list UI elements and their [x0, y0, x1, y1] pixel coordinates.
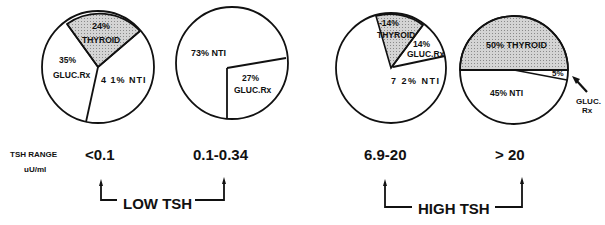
pie2-gluc-label: GLUC.Rx: [234, 85, 271, 95]
pie3-gluc-pct: 14%: [413, 39, 430, 49]
high-tsh-label: HIGH TSH: [418, 200, 490, 217]
pie1-gluc-pct: 35%: [59, 55, 76, 65]
range-label-3: 6.9-20: [364, 146, 407, 163]
pie-chart-0.1-0.34: [176, 7, 288, 119]
pie3-gluc-label: GLUC.Rx: [407, 49, 444, 59]
range-label-2: 0.1-0.34: [193, 146, 248, 163]
low-tsh-label: LOW TSH: [123, 195, 192, 212]
tsh-range-title: TSH RANGE: [10, 150, 57, 159]
pie4-gluc-callout-2: Rx: [582, 106, 592, 115]
pie-charts: [0, 0, 605, 225]
pie3-thyroid-label: THYROID: [377, 30, 415, 40]
range-label-1: <0.1: [85, 146, 115, 163]
pie3-thyroid-pct: -14%: [379, 18, 399, 28]
pie2-gluc-pct: 27%: [242, 73, 259, 83]
pie4-thyroid-label: 50% THYROID: [486, 40, 547, 50]
pie1-gluc-label: GLUC.Rx: [53, 70, 90, 80]
pie4-nti-label: 45% NTI: [490, 88, 523, 98]
pie1-nti-label: 4 1% NTI: [101, 75, 147, 85]
pie4-gluc-callout-1: GLUC.: [576, 97, 601, 106]
pie1-thyroid-label: THYROID: [82, 35, 120, 45]
pie2-nti-label: 73% NTI: [191, 48, 226, 58]
range-label-4: > 20: [495, 146, 525, 163]
tsh-range-unit: uU/ml: [24, 165, 46, 174]
pie3-nti-label: 7 2% NTI: [391, 76, 441, 86]
pie-chart-gt-20: [460, 16, 587, 124]
pie1-thyroid-pct: 24%: [92, 21, 110, 31]
pie4-gluc-pct: 5%: [552, 69, 564, 78]
